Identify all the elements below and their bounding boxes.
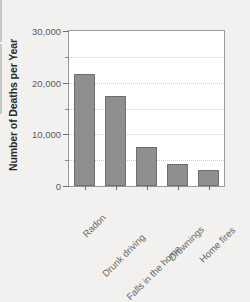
y-axis-title: Number of Deaths per Year xyxy=(7,39,19,171)
y-axis-minor-tick xyxy=(65,109,69,110)
x-axis-tick-label: Radon xyxy=(80,212,108,240)
y-axis-tick xyxy=(63,134,69,135)
y-axis-tick xyxy=(63,31,69,32)
y-axis-tick-label: 10,000 xyxy=(32,129,61,140)
bar xyxy=(105,96,126,186)
y-axis-tick xyxy=(63,83,69,84)
y-axis-tick-label: 30,000 xyxy=(32,26,61,37)
plot-inner: 010,00020,00030,000 xyxy=(69,31,224,186)
gridline xyxy=(69,57,224,58)
x-axis-tick xyxy=(209,186,210,190)
y-axis-title-container: Number of Deaths per Year xyxy=(2,20,24,190)
y-axis-minor-tick xyxy=(65,57,69,58)
x-axis-tick xyxy=(85,186,86,190)
plot-area: 010,00020,00030,000 xyxy=(68,30,225,187)
bar xyxy=(198,170,219,186)
y-axis-tick-label: 20,000 xyxy=(32,77,61,88)
x-axis-tick xyxy=(116,186,117,190)
x-axis-tick xyxy=(178,186,179,190)
y-axis-tick-label: 0 xyxy=(56,181,61,192)
x-axis-tick-label: Drunk driving xyxy=(99,232,146,279)
x-axis-tick xyxy=(147,186,148,190)
bar xyxy=(167,164,188,186)
y-axis-tick xyxy=(63,186,69,187)
bar xyxy=(136,147,157,186)
y-axis-minor-tick xyxy=(65,160,69,161)
bar xyxy=(74,74,95,186)
